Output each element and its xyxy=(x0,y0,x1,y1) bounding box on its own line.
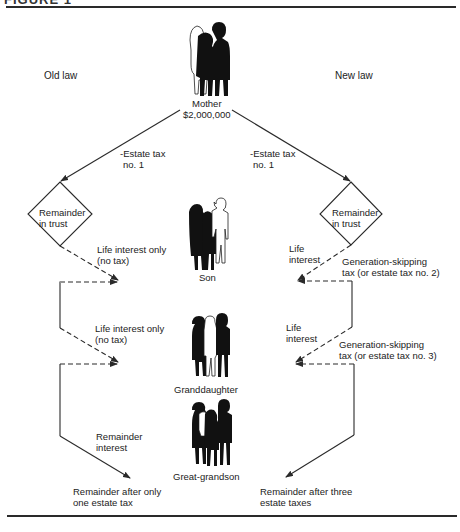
old-law-remainder-interest-label: Remainder interest xyxy=(96,431,142,453)
mother-family-figure xyxy=(190,22,230,96)
mother-label: Mother $2,000,000 xyxy=(183,98,231,120)
new-law-trust-label: Remainder in trust xyxy=(332,207,378,229)
new-law-title: New law xyxy=(335,70,373,81)
mother-amount: $2,000,000 xyxy=(183,109,231,120)
new-law-gst-label-1: Generation-skipping tax (or estate tax n… xyxy=(342,256,440,278)
new-law-estate-tax-label: -Estate tax no. 1 xyxy=(250,148,295,170)
old-law-life-interest-label-1: Life interest only (no tax) xyxy=(97,244,166,266)
old-law-estate-tax-label: -Estate tax no. 1 xyxy=(120,148,165,170)
great-grandson-label: Great-grandson xyxy=(173,471,240,482)
old-law-connector-1 xyxy=(60,282,117,328)
new-law-gst-label-2: Generation-skipping tax (or estate tax n… xyxy=(339,339,437,361)
granddaughter-label: Granddaughter xyxy=(174,384,238,395)
great-grandson-family-figure xyxy=(192,399,232,466)
new-law-result-label: Remainder after three estate taxes xyxy=(260,486,352,508)
old-law-result-label: Remainder after only one estate tax xyxy=(73,486,161,508)
old-law-trust-label: Remainder in trust xyxy=(39,207,85,229)
new-law-estate-tax-arrow xyxy=(232,110,350,181)
son-label: Son xyxy=(199,272,216,283)
granddaughter-family-figure xyxy=(192,313,230,377)
old-law-estate-tax-arrow xyxy=(61,110,180,181)
new-law-life-interest-label-2: Life interest xyxy=(286,322,317,344)
new-law-remainder-arrow xyxy=(286,435,354,477)
new-law-life-interest-label-1: Life interest xyxy=(289,243,320,265)
son-family-figure xyxy=(189,198,228,270)
mother-name: Mother xyxy=(183,98,231,109)
old-law-title: Old law xyxy=(44,70,77,81)
old-law-life-interest-label-2: Life interest only (no tax) xyxy=(95,323,164,345)
